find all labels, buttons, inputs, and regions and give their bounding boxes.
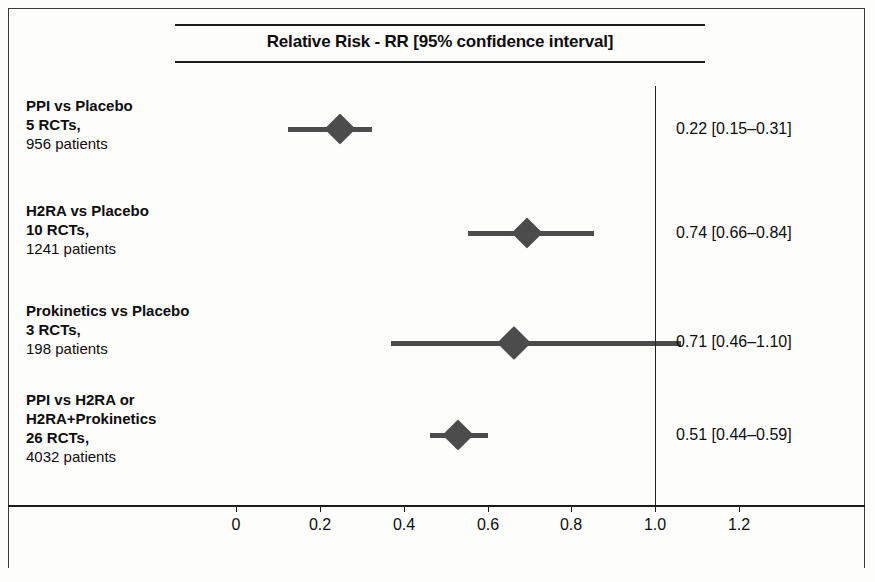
- x-axis-tick-label-1: 0.2: [309, 516, 331, 534]
- row-value-1: 0.22 [0.15–0.31]: [676, 120, 861, 138]
- x-axis-tick-0: [236, 505, 237, 512]
- effect-estimate-diamond-2: [511, 217, 542, 248]
- effect-estimate-diamond-4: [442, 419, 473, 450]
- row-trials-3: 3 RCTs,: [26, 320, 241, 339]
- x-axis-tick-label-4: 0.8: [560, 516, 582, 534]
- effect-estimate-diamond-1: [324, 113, 355, 144]
- row-label-2: H2RA vs Placebo 10 RCTs, 1241 patients: [26, 201, 241, 258]
- confidence-interval-line-3: [391, 341, 681, 346]
- x-axis-line: [236, 505, 673, 507]
- row-value-3: 0.71 [0.46–1.10]: [676, 333, 861, 351]
- x-axis-tick-label-3: 0.6: [477, 516, 499, 534]
- row-value-4: 0.51 [0.44–0.59]: [676, 426, 861, 444]
- row-comparison-2: H2RA vs Placebo: [26, 201, 241, 220]
- row-comparison-4b: H2RA+Prokinetics: [26, 409, 241, 428]
- row-patients-3: 198 patients: [26, 339, 241, 358]
- row-patients-4: 4032 patients: [26, 447, 241, 466]
- effect-estimate-diamond-3: [497, 326, 531, 360]
- row-label-4: PPI vs H2RA or H2RA+Prokinetics 26 RCTs,…: [26, 390, 241, 466]
- x-axis-tick-label-0: 0: [232, 516, 241, 534]
- x-axis-tick-5: [655, 505, 656, 512]
- x-axis-tick-label-6: 1.2: [728, 516, 750, 534]
- x-axis-tick-1: [320, 505, 321, 512]
- row-trials-2: 10 RCTs,: [26, 220, 241, 239]
- row-trials-4: 26 RCTs,: [26, 428, 241, 447]
- x-axis-tick-3: [488, 505, 489, 512]
- row-comparison-3: Prokinetics vs Placebo: [26, 301, 241, 320]
- row-label-3: Prokinetics vs Placebo 3 RCTs, 198 patie…: [26, 301, 241, 358]
- forest-plot-figure: Relative Risk - RR [95% confidence inter…: [0, 0, 875, 582]
- plot-area: PPI vs Placebo 5 RCTs, 956 patients 0.22…: [0, 0, 875, 582]
- x-axis-tick-6: [739, 505, 740, 512]
- x-axis-tick-4: [571, 505, 572, 512]
- row-trials-1: 5 RCTs,: [26, 115, 241, 134]
- x-axis-tick-label-5: 1.0: [644, 516, 666, 534]
- row-value-2: 0.74 [0.66–0.84]: [676, 224, 861, 242]
- row-patients-2: 1241 patients: [26, 239, 241, 258]
- row-comparison-4: PPI vs H2RA or: [26, 390, 241, 409]
- x-axis-tick-2: [404, 505, 405, 512]
- row-comparison-1: PPI vs Placebo: [26, 96, 241, 115]
- x-axis-tick-label-2: 0.4: [393, 516, 415, 534]
- reference-line-null-effect: [655, 86, 656, 507]
- row-label-1: PPI vs Placebo 5 RCTs, 956 patients: [26, 96, 241, 153]
- row-patients-1: 956 patients: [26, 134, 241, 153]
